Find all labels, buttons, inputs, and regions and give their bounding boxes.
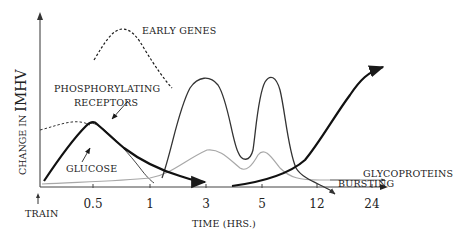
- glucose-pointer-arrow: [82, 148, 90, 162]
- y-axis-arrow-icon: [37, 12, 43, 20]
- glucose-curve: [88, 123, 154, 183]
- bursting-curve: [162, 77, 335, 194]
- svg-text:CHANGE IN IMHV: CHANGE IN IMHV: [13, 69, 29, 175]
- phosphorylating-label-line2: RECEPTORS: [74, 97, 138, 108]
- x-tick-label: 3: [202, 197, 210, 211]
- y-axis: [37, 12, 43, 187]
- x-tick-label: 12: [309, 197, 324, 211]
- bursting-label: BURSTING: [338, 178, 394, 189]
- phosphorylating-label-line1: PHOSPHORYLATING: [54, 83, 160, 94]
- x-tick-label: 24: [364, 197, 380, 211]
- x-tick-label: 0.5: [83, 197, 102, 211]
- x-axis: [40, 184, 388, 190]
- y-axis-label-prefix: CHANGE IN: [17, 112, 28, 175]
- early-genes-label: EARLY GENES: [142, 25, 216, 36]
- late-rising-curve: [232, 67, 383, 186]
- imhv-time-course-diagram: 0.5 1 3 5 12 24 TRAIN TIME (HRS.) CHANGE…: [0, 0, 457, 241]
- glucose-label: GLUCOSE: [66, 163, 117, 174]
- x-tick-label: 5: [258, 197, 266, 211]
- y-axis-label: CHANGE IN IMHV: [13, 69, 29, 175]
- early-genes-curve: [94, 29, 172, 88]
- y-axis-label-emph: IMHV: [13, 69, 29, 112]
- x-axis-label: TIME (HRS.): [192, 218, 256, 229]
- train-arrow-icon: [36, 193, 40, 198]
- train-marker: [36, 193, 40, 204]
- train-label: TRAIN: [25, 208, 58, 219]
- x-tick-label: 1: [146, 197, 154, 211]
